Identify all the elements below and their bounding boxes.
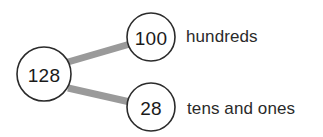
node-part-tens-ones: 28: [127, 83, 175, 131]
label-tens-and-ones: tens and ones: [187, 99, 295, 119]
node-whole-128: 128: [17, 47, 71, 101]
number-bond-diagram: 128 100 28 hundreds tens and ones: [0, 0, 323, 137]
label-hundreds: hundreds: [186, 27, 258, 47]
branch-line-to-hundreds: [68, 44, 130, 62]
node-part-hundreds: 100: [127, 13, 175, 61]
node-part-tens-ones-value: 28: [140, 98, 162, 119]
node-whole-value: 128: [28, 65, 60, 86]
branch-line-to-tens-ones: [68, 88, 130, 102]
node-part-hundreds-value: 100: [135, 28, 167, 49]
